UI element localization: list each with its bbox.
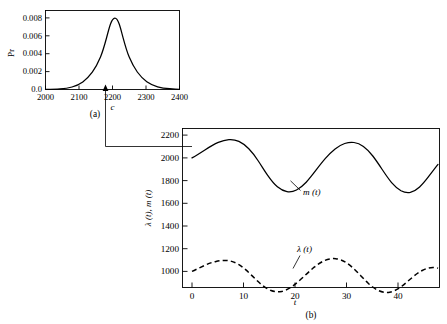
panel-b-xtick-0: 0	[190, 291, 195, 301]
panel-a: 0.0 0.002 0.004 0.006 0.008 2000 2100 22…	[6, 11, 188, 113]
panel-a-xtick-2: 2200	[104, 92, 121, 102]
panel-a-xtick-4: 2400	[171, 92, 188, 102]
panel-a-x-ticklabels: 2000 2100 2200 2300 2400	[37, 92, 188, 102]
panel-b-frame	[183, 129, 440, 288]
panel-b-ytick-5: 2000	[161, 153, 180, 163]
panel-b-curve-m	[192, 140, 438, 193]
mean-arrow-icon	[103, 85, 109, 92]
panel-b-caption: (b)	[306, 310, 317, 321]
panel-a-xtick-0: 2000	[37, 92, 54, 102]
panel-a-caption: (a)	[90, 109, 100, 120]
panel-a-ylabel: Pr	[6, 49, 16, 57]
panel-b-ytick-0: 1000	[161, 266, 180, 276]
panel-b-ylabel: λ (t), m (t)	[143, 190, 153, 227]
panel-a-frame	[46, 11, 180, 90]
figure-canvas: 0.0 0.002 0.004 0.006 0.008 2000 2100 22…	[0, 0, 447, 324]
panel-a-ytick-4: 0.008	[23, 13, 42, 23]
panel-b-x-ticklabels: 0 10 20 30 40	[190, 291, 403, 301]
panel-b-xtick-1: 10	[239, 291, 249, 301]
panel-a-curve-pr	[46, 18, 180, 89]
panel-a-ytick-2: 0.004	[23, 48, 43, 58]
panel-a-ytick-1: 0.002	[23, 66, 42, 76]
panel-a-ytick-3: 0.006	[23, 31, 43, 41]
panel-b-y-ticklabels: 1000 1200 1400 1600 1800 2000 2200	[161, 130, 180, 276]
panel-b-ytick-4: 1800	[161, 176, 180, 186]
figure-svg: 0.0 0.002 0.004 0.006 0.008 2000 2100 22…	[0, 0, 447, 324]
panel-a-xlabel: c	[111, 102, 115, 112]
panel-a-y-ticklabels: 0.0 0.002 0.004 0.006 0.008	[23, 13, 43, 95]
panel-b-xtick-4: 40	[393, 291, 403, 301]
panel-b-ytick-1: 1200	[161, 244, 180, 254]
panel-b-ytick-3: 1600	[161, 198, 180, 208]
panel-b-y-ticks	[183, 135, 188, 271]
panel-b: 1000 1200 1400 1600 1800 2000 2200 0 10 …	[143, 129, 440, 308]
panel-b-ytick-6: 2200	[161, 130, 180, 140]
panel-a-y-ticks	[46, 18, 50, 90]
panel-b-xtick-3: 30	[342, 291, 352, 301]
panel-a-xtick-1: 2100	[70, 92, 87, 102]
panel-b-annotation-lambda: λ (t)	[293, 244, 312, 269]
panel-a-xtick-3: 2300	[137, 92, 154, 102]
panel-b-ytick-2: 1400	[161, 221, 180, 231]
m-curve-label: m (t)	[303, 187, 321, 197]
lambda-curve-label: λ (t)	[296, 244, 312, 254]
